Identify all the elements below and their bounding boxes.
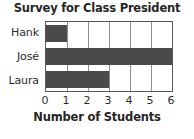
x-tick-label: 5 (142, 94, 158, 107)
bar-row (46, 48, 172, 65)
bar-chart: Survey for Class President Hank José Lau… (0, 0, 194, 139)
bars-layer (46, 22, 172, 91)
x-tick-label: 0 (37, 94, 53, 107)
x-tick-label: 1 (58, 94, 74, 107)
plot-area (45, 21, 173, 92)
value-axis: 0123456 (45, 94, 173, 108)
bar-row (46, 25, 172, 42)
category-axis: Hank José Laura (0, 21, 42, 92)
x-tick-label: 6 (163, 94, 179, 107)
bar-jose (46, 48, 172, 65)
x-tick-label: 3 (100, 94, 116, 107)
x-tick-label: 2 (79, 94, 95, 107)
bar-row (46, 71, 172, 88)
category-label-jose: José (0, 45, 42, 69)
x-axis-title: Number of Students (0, 110, 194, 124)
chart-title: Survey for Class President (0, 1, 194, 15)
bar-laura (46, 71, 109, 88)
bar-hank (46, 25, 67, 42)
category-label-hank: Hank (0, 21, 42, 45)
category-label-laura: Laura (0, 68, 42, 92)
x-tick-label: 4 (121, 94, 137, 107)
